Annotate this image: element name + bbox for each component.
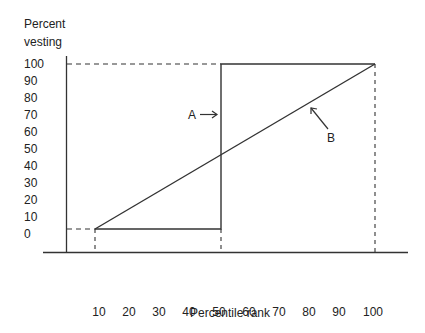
series-b-linear-line bbox=[95, 64, 375, 229]
y-axis-title-line2: vesting bbox=[24, 35, 62, 49]
x-tick-label: 80 bbox=[294, 305, 324, 319]
y-axis-title-line1: Percent bbox=[24, 17, 65, 31]
y-tick-label: 30 bbox=[24, 176, 64, 190]
y-tick-label: 0 bbox=[24, 227, 64, 241]
y-tick-label: 90 bbox=[24, 74, 64, 88]
arrow-b-icon bbox=[311, 108, 328, 129]
y-tick-label: 10 bbox=[24, 210, 64, 224]
vesting-chart: Percent vesting 100 90 80 70 60 50 40 30… bbox=[0, 0, 425, 333]
y-tick-label: 80 bbox=[24, 91, 64, 105]
x-axis-title: Percentile rank bbox=[190, 306, 270, 320]
y-tick-label: 100 bbox=[24, 57, 64, 71]
y-tick-label: 20 bbox=[24, 193, 64, 207]
y-tick-label: 50 bbox=[24, 142, 64, 156]
x-tick-label: 20 bbox=[114, 305, 144, 319]
y-tick-label: 40 bbox=[24, 159, 64, 173]
x-tick-label: 30 bbox=[144, 305, 174, 319]
annotation-b-label: B bbox=[327, 131, 335, 145]
x-tick-label: 100 bbox=[358, 305, 388, 319]
y-tick-label: 60 bbox=[24, 125, 64, 139]
annotation-a-label: A bbox=[188, 108, 196, 122]
arrow-a-icon bbox=[200, 111, 217, 118]
y-tick-label: 70 bbox=[24, 108, 64, 122]
x-tick-label: 10 bbox=[84, 305, 114, 319]
x-tick-label: 90 bbox=[324, 305, 354, 319]
